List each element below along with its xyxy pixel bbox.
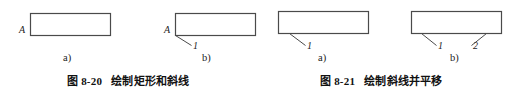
point-label-A-fig-8-20-a: A xyxy=(19,25,25,35)
sublabel-8-20-a: a) xyxy=(63,53,71,64)
figure-page: A A 1 1 1 2 a) b) a) b) 图 8-20绘制矩形和斜线 图 … xyxy=(0,0,523,90)
rectangle-fig-8-20-b xyxy=(176,14,256,36)
caption-8-20-number: 图 8-20 xyxy=(67,75,102,87)
figure-shapes xyxy=(31,12,502,46)
sublabel-8-20-b: b) xyxy=(202,53,211,64)
leader-line-slash-1-fig-8-21-b xyxy=(422,34,437,46)
leader-line-slash-1-fig-8-20-b xyxy=(176,36,192,46)
point-label-1-fig-8-21-a: 1 xyxy=(307,41,312,51)
sublabel-8-21-a: a) xyxy=(318,53,326,64)
point-label-1-fig-8-21-b: 1 xyxy=(438,41,443,51)
point-label-2-fig-8-21-b: 2 xyxy=(473,41,478,51)
rectangle-fig-8-21-b xyxy=(412,12,502,34)
rectangle-fig-8-21-a xyxy=(279,12,369,34)
point-label-A-fig-8-20-b: A xyxy=(164,25,170,35)
sublabel-8-21-b: b) xyxy=(450,53,459,64)
caption-8-20: 图 8-20绘制矩形和斜线 xyxy=(67,72,190,88)
caption-8-21: 图 8-21绘制斜线并平移 xyxy=(320,72,443,88)
leader-line-slash-1-fig-8-21-a xyxy=(290,34,306,46)
point-label-1-fig-8-20-b: 1 xyxy=(193,41,198,51)
caption-8-21-text: 绘制斜线并平移 xyxy=(364,75,442,88)
caption-8-21-number: 图 8-21 xyxy=(320,75,355,87)
caption-8-20-text: 绘制矩形和斜线 xyxy=(111,75,189,88)
rectangle-fig-8-20-a xyxy=(31,14,111,36)
